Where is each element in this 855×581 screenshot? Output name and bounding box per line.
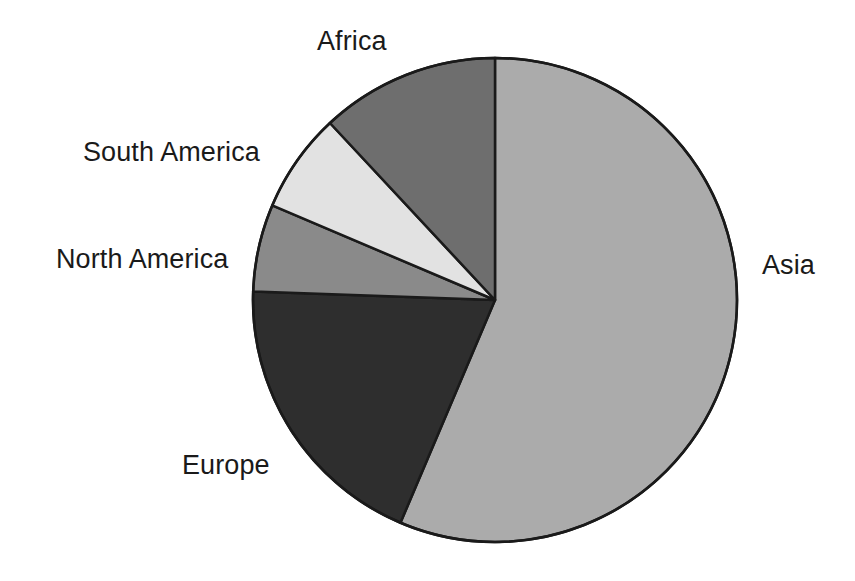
slice-label-europe: Europe <box>182 450 270 481</box>
slice-label-africa: Africa <box>317 26 387 57</box>
pie-slice-group <box>253 58 737 542</box>
slice-label-north-america: North America <box>56 244 228 275</box>
slice-label-south-america: South America <box>83 137 260 168</box>
slice-label-asia: Asia <box>762 250 815 281</box>
pie-chart-canvas <box>0 0 855 581</box>
pie-chart-figure: Africa South America North America Europ… <box>0 0 855 581</box>
